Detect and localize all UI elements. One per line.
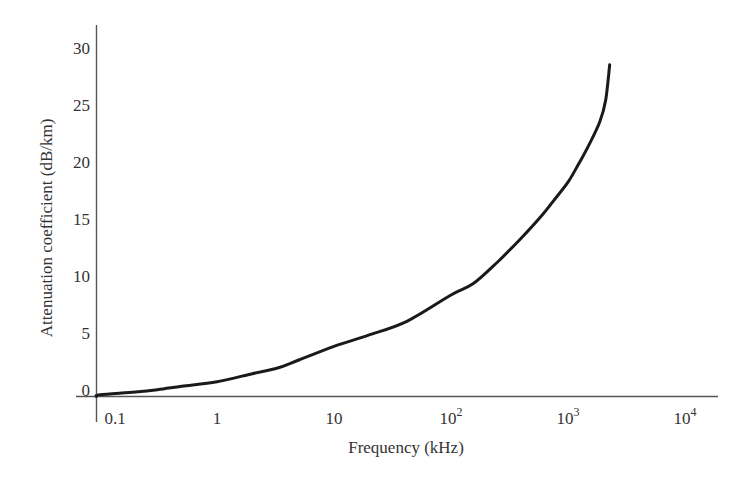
x-tick-exponent: 3: [574, 405, 580, 419]
y-axis-title-group: Attenuation coefficient (dB/km): [37, 119, 56, 338]
x-tick-base: 1: [213, 409, 222, 428]
x-tick-base: 10: [674, 409, 691, 428]
y-tick-label: 20: [73, 153, 90, 172]
x-tick-exponent: 2: [457, 405, 463, 419]
y-tick-label: 15: [73, 210, 90, 229]
x-tick-label: 104: [674, 405, 697, 428]
y-axis-title: Attenuation coefficient (dB/km): [37, 119, 56, 338]
x-tick-label: 0.1: [104, 409, 125, 428]
x-axis-title: Frequency (kHz): [348, 438, 464, 457]
y-tick-label: 5: [82, 324, 91, 343]
y-tick-label: 30: [73, 39, 90, 58]
x-tick-label: 10: [326, 409, 343, 428]
x-tick-exponent: 4: [691, 405, 697, 419]
x-tick-base: 0.1: [104, 409, 125, 428]
attenuation-curve: [96, 65, 610, 397]
y-axis-tick-labels: 051015202530: [73, 39, 90, 400]
x-axis-tick-labels: 0.1110102103104: [104, 405, 696, 428]
x-tick-label: 1: [213, 409, 222, 428]
x-tick-base: 10: [557, 409, 574, 428]
x-tick-label: 103: [557, 405, 580, 428]
x-tick-base: 10: [440, 409, 457, 428]
y-tick-label: 25: [73, 96, 90, 115]
y-tick-label: 10: [73, 267, 90, 286]
attenuation-chart: Attenuation coefficient (dB/km) Frequenc…: [0, 0, 752, 486]
x-tick-base: 10: [326, 409, 343, 428]
x-tick-label: 102: [440, 405, 463, 428]
